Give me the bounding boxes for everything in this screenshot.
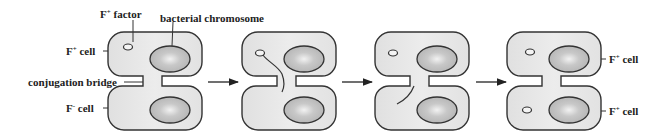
stage-2-cell-pair <box>242 32 336 130</box>
stage-1-cell-pair <box>108 32 202 130</box>
f-plasmid-bottom <box>523 107 532 113</box>
conjugation-diagram: F+ factor bacterial chromosome F+ cell c… <box>0 0 659 140</box>
f-plasmid <box>124 44 133 50</box>
stage-3-cell-pair <box>375 32 469 130</box>
label-f-factor: F+ factor <box>100 8 142 20</box>
label-bacterial-chromosome: bacterial chromosome <box>160 12 264 24</box>
stage-4-cell-pair <box>507 32 601 130</box>
label-result-bottom-f-plus-cell: F+ cell <box>609 105 638 117</box>
f-plasmid <box>389 50 398 56</box>
label-f-plus-cell: F+ cell <box>66 45 95 57</box>
label-result-top-f-plus-cell: F+ cell <box>609 53 638 65</box>
label-f-minus-cell: F- cell <box>66 102 94 114</box>
f-plasmid-top <box>526 49 535 55</box>
chromosome-bottom <box>150 97 190 123</box>
label-conjugation-bridge: conjugation bridge <box>28 76 117 88</box>
chromosome-top <box>150 46 190 72</box>
